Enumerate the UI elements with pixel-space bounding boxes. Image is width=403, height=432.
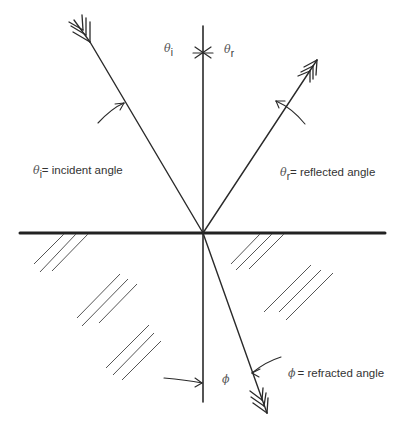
subscript-i: i — [171, 47, 173, 58]
incident-ray-feathers-icon — [69, 15, 90, 42]
reflected-angle-label: θr= reflected angle — [280, 167, 375, 179]
reflected-ray — [203, 60, 317, 233]
reflected-angle-symbol: θr — [224, 44, 234, 56]
refracted-angle-arrow-icon — [252, 357, 281, 377]
reflected-angle-arrow-icon — [276, 101, 305, 124]
incident-angle-arrow-icon — [98, 103, 124, 123]
theta-symbol: θ — [224, 43, 231, 56]
incident-angle-text: = incident angle — [42, 164, 123, 176]
theta-symbol: θ — [164, 42, 171, 55]
reflected-angle-text: = reflected angle — [290, 166, 375, 178]
subscript-r: r — [287, 171, 290, 182]
refracted-angle-symbol: ϕ — [222, 374, 230, 386]
phi-symbol: ϕ — [288, 367, 296, 380]
subscript-r: r — [231, 48, 234, 59]
medium-hatching — [34, 234, 333, 380]
theta-symbol: θ — [33, 164, 40, 177]
incident-ray — [90, 42, 203, 233]
incident-angle-symbol: θi — [164, 43, 173, 55]
phi-symbol: ϕ — [222, 373, 230, 386]
normal-angle-arrow-icon — [164, 378, 202, 387]
incident-angle-label: θi= incident angle — [33, 165, 123, 177]
refracted-angle-text: = refracted angle — [298, 367, 385, 379]
refracted-angle-label: ϕ= refracted angle — [288, 368, 384, 380]
theta-symbol: θ — [280, 166, 287, 179]
subscript-i: i — [40, 169, 42, 180]
